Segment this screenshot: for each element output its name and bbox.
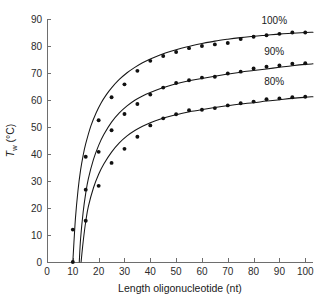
- data-point: [135, 135, 139, 139]
- data-point: [303, 95, 307, 99]
- y-tick-label-10: 10: [31, 230, 43, 241]
- data-point: [161, 54, 165, 58]
- y-axis-title: Tw (°C): [4, 124, 19, 158]
- data-point: [290, 31, 294, 35]
- x-tick-label-90: 90: [274, 266, 286, 277]
- x-tick-label-0: 0: [44, 266, 50, 277]
- series-data-points: [71, 31, 307, 264]
- data-point: [239, 37, 243, 41]
- data-point: [290, 62, 294, 66]
- data-point: [174, 50, 178, 54]
- data-point: [239, 101, 243, 105]
- data-point: [148, 93, 152, 97]
- series-labels: 100%90%80%: [261, 15, 287, 87]
- data-point: [290, 95, 294, 99]
- y-tick-label-90: 90: [31, 14, 43, 25]
- x-tick-label-40: 40: [145, 266, 157, 277]
- data-point: [187, 108, 191, 112]
- data-point: [148, 123, 152, 127]
- melting-temperature-plot: 0102030405060708090100 01020304050607080…: [0, 0, 323, 304]
- data-point: [303, 31, 307, 35]
- data-point: [277, 32, 281, 36]
- data-point: [252, 35, 256, 39]
- series-label-90pct: 90%: [264, 46, 284, 57]
- data-point: [97, 118, 101, 122]
- data-point: [84, 219, 88, 223]
- data-point: [213, 42, 217, 46]
- data-point: [265, 97, 269, 101]
- curve-90pct: [79, 64, 313, 262]
- data-point: [200, 76, 204, 80]
- y-tick-label-20: 20: [31, 203, 43, 214]
- curve-100pct: [73, 32, 313, 262]
- data-point: [277, 63, 281, 67]
- data-point: [123, 112, 127, 116]
- x-tick-label-80: 80: [248, 266, 260, 277]
- data-point: [277, 96, 281, 100]
- data-point: [123, 147, 127, 151]
- data-point: [200, 44, 204, 48]
- data-point: [187, 46, 191, 50]
- data-point: [71, 260, 75, 264]
- series-label-100pct: 100%: [261, 15, 287, 26]
- data-point: [265, 65, 269, 69]
- data-point: [187, 78, 191, 82]
- y-tick-label-50: 50: [31, 122, 43, 133]
- data-point: [110, 128, 114, 132]
- data-point: [84, 155, 88, 159]
- data-point: [135, 69, 139, 73]
- x-tick-label-100: 100: [297, 266, 314, 277]
- data-point: [110, 161, 114, 165]
- chart-figure: 0102030405060708090100 01020304050607080…: [0, 0, 323, 304]
- data-point: [213, 106, 217, 110]
- data-point: [71, 228, 75, 232]
- y-axis-unit: (°C): [4, 124, 16, 146]
- data-point: [174, 81, 178, 85]
- data-point: [148, 59, 152, 63]
- data-point: [226, 103, 230, 107]
- data-point: [213, 75, 217, 79]
- x-tick-label-70: 70: [222, 266, 234, 277]
- y-axis-title-text: Tw (°C): [4, 124, 19, 158]
- y-tick-labels: 0102030405060708090: [31, 14, 43, 268]
- data-point: [252, 66, 256, 70]
- data-point: [123, 82, 127, 86]
- y-tick-label-60: 60: [31, 95, 43, 106]
- data-point: [97, 150, 101, 154]
- data-point: [84, 188, 88, 192]
- data-point: [226, 72, 230, 76]
- data-point: [135, 102, 139, 106]
- data-point: [265, 33, 269, 37]
- data-point: [239, 70, 243, 74]
- data-point: [303, 61, 307, 65]
- x-tick-label-30: 30: [119, 266, 131, 277]
- y-tick-label-40: 40: [31, 149, 43, 160]
- data-point: [174, 112, 178, 116]
- x-tick-label-60: 60: [196, 266, 208, 277]
- y-tick-label-80: 80: [31, 41, 43, 52]
- data-point: [161, 86, 165, 90]
- x-axis-title: Length oligonucleotide (nt): [118, 282, 242, 294]
- curve-80pct: [81, 97, 313, 262]
- data-point: [97, 184, 101, 188]
- x-tick-label-20: 20: [93, 266, 105, 277]
- data-point: [252, 100, 256, 104]
- series-label-80pct: 80%: [264, 76, 284, 87]
- x-tick-label-10: 10: [67, 266, 79, 277]
- series-curves: [73, 32, 313, 262]
- x-tick-labels: 0102030405060708090100: [44, 266, 314, 277]
- x-axis-title-text: Length oligonucleotide (nt): [118, 282, 242, 294]
- y-tick-label-30: 30: [31, 176, 43, 187]
- data-point: [161, 116, 165, 120]
- data-point: [110, 95, 114, 99]
- y-tick-label-70: 70: [31, 68, 43, 79]
- data-point: [200, 108, 204, 112]
- y-tick-label-0: 0: [36, 257, 42, 268]
- x-tick-label-50: 50: [171, 266, 183, 277]
- data-point: [226, 41, 230, 45]
